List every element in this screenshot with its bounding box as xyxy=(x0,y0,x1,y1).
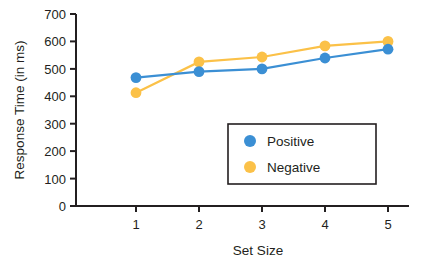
x-tick-label: 5 xyxy=(384,217,391,232)
y-tick-label: 0 xyxy=(59,199,66,214)
data-point-positive xyxy=(320,53,331,64)
x-tick-label: 1 xyxy=(132,217,139,232)
response-time-scatter-chart: 0 100 200 300 400 500 600 700 1 2 3 4 5 … xyxy=(0,0,437,266)
data-point-positive xyxy=(383,44,394,55)
data-point-positive xyxy=(257,64,268,75)
x-axis-title: Set Size xyxy=(233,243,283,258)
chart-legend: Positive Negative xyxy=(228,124,376,184)
legend-label-positive: Positive xyxy=(267,134,314,149)
x-tick-label: 4 xyxy=(321,217,328,232)
y-tick-label: 200 xyxy=(44,144,66,159)
x-tick-label: 3 xyxy=(258,217,265,232)
legend-box xyxy=(228,124,376,184)
y-tick-label: 500 xyxy=(44,62,66,77)
y-tick-label: 400 xyxy=(44,89,66,104)
data-point-negative xyxy=(257,52,268,63)
y-tick-label: 700 xyxy=(44,7,66,22)
y-tick-label: 100 xyxy=(44,172,66,187)
y-axis-title: Response Time (in ms) xyxy=(12,41,27,180)
y-tick-label: 600 xyxy=(44,34,66,49)
legend-label-negative: Negative xyxy=(267,160,320,175)
data-point-negative xyxy=(194,57,205,68)
data-point-positive xyxy=(194,66,205,77)
x-tick-label: 2 xyxy=(195,217,202,232)
legend-marker-positive xyxy=(244,135,256,147)
y-tick-label: 300 xyxy=(44,117,66,132)
data-point-positive xyxy=(131,72,142,83)
data-point-negative xyxy=(131,87,142,98)
data-point-negative xyxy=(320,41,331,52)
chart-container: 0 100 200 300 400 500 600 700 1 2 3 4 5 … xyxy=(0,0,437,266)
legend-marker-negative xyxy=(244,161,256,173)
